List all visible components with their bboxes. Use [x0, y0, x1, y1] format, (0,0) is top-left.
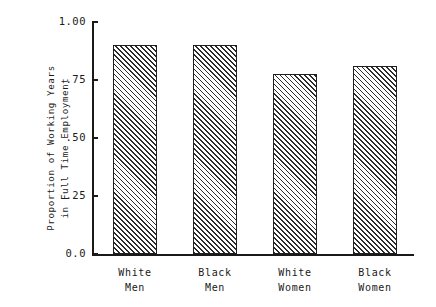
y-axis-tick-label: 1.00 — [0, 15, 86, 27]
x-axis-label-line: Women — [325, 281, 425, 296]
y-axis-tick — [92, 21, 98, 23]
x-axis-label: BlackWomen — [325, 266, 425, 295]
y-axis-tick-label: 0.0 — [0, 247, 86, 259]
y-axis-tick — [92, 253, 98, 255]
bar — [353, 66, 397, 254]
y-axis-tick — [92, 79, 98, 81]
bar — [273, 74, 317, 254]
y-axis-tick-label: .50 — [0, 131, 86, 143]
y-axis-tick — [92, 137, 98, 139]
x-axis-line — [92, 254, 414, 256]
y-axis-tick — [92, 195, 98, 197]
y-axis-tick-label: .25 — [0, 189, 86, 201]
y-axis-tick-labels: 0.0.25.50.751.00 — [0, 0, 86, 307]
bar — [113, 45, 157, 254]
x-axis-label-line: Black — [325, 266, 425, 281]
bar-chart-figure: Proportion of Working Years in Full Time… — [0, 0, 436, 307]
bar — [193, 45, 237, 254]
y-axis-tick-label: .75 — [0, 73, 86, 85]
